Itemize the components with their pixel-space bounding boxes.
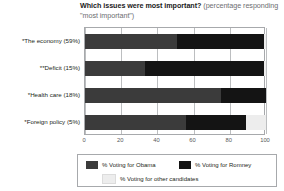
x-axis-tick-60: 60 [189, 137, 195, 143]
legend-swatch-icon [102, 174, 116, 184]
x-axis-tick-100: 100 [260, 137, 270, 143]
y-axis-label: *The economy (59%) [22, 37, 80, 45]
bar-segment [85, 88, 221, 103]
gridline-100 [266, 28, 267, 134]
chart-container: Which issues were most important? (perce… [0, 0, 284, 191]
y-axis-label: *Health care (18%) [28, 91, 80, 99]
x-axis-tick-80: 80 [226, 137, 232, 143]
bar-segment [186, 115, 246, 130]
x-axis-tick-40: 40 [153, 137, 159, 143]
bar-segment [85, 61, 145, 76]
legend-label: % Voting for Obama [102, 162, 156, 168]
bar-segment [85, 34, 177, 49]
legend-item[interactable]: % Voting for Obama [86, 161, 156, 169]
legend-item[interactable]: % Voting for other candidates [102, 174, 198, 184]
bar-segment [145, 61, 264, 76]
bar-row [85, 34, 264, 49]
legend-swatch-icon [179, 161, 191, 169]
bar-segment [246, 115, 266, 130]
bars-layer [85, 28, 264, 134]
legend-label: % Voting for other candidates [120, 176, 198, 182]
chart-title-main: Which issues were most important? [80, 1, 203, 10]
chart-title: Which issues were most important? (perce… [80, 1, 280, 21]
x-axis-tick-20: 20 [117, 137, 123, 143]
bar-row [85, 88, 264, 103]
legend-label: % Voting for Romney [195, 162, 251, 168]
bar-segment [177, 34, 264, 49]
bar-segment [85, 115, 186, 130]
x-axis-tick-0: 0 [82, 137, 85, 143]
y-axis-labels: *The economy (59%)**Deficit (15%)*Health… [0, 27, 82, 135]
bar-segment [264, 34, 266, 49]
y-axis-label: *Foreign policy (5%) [24, 118, 80, 126]
bar-segment [221, 88, 266, 103]
bar-row [85, 115, 264, 130]
bar-row [85, 61, 264, 76]
chart-legend: % Voting for Obama% Voting for Romney% V… [77, 154, 277, 187]
plot-area [84, 27, 265, 135]
x-axis-labels: 020406080100 [84, 137, 265, 147]
bar-segment [264, 61, 266, 76]
legend-swatch-icon [86, 161, 98, 169]
y-axis-label: **Deficit (15%) [40, 64, 80, 72]
legend-item[interactable]: % Voting for Romney [179, 161, 251, 169]
